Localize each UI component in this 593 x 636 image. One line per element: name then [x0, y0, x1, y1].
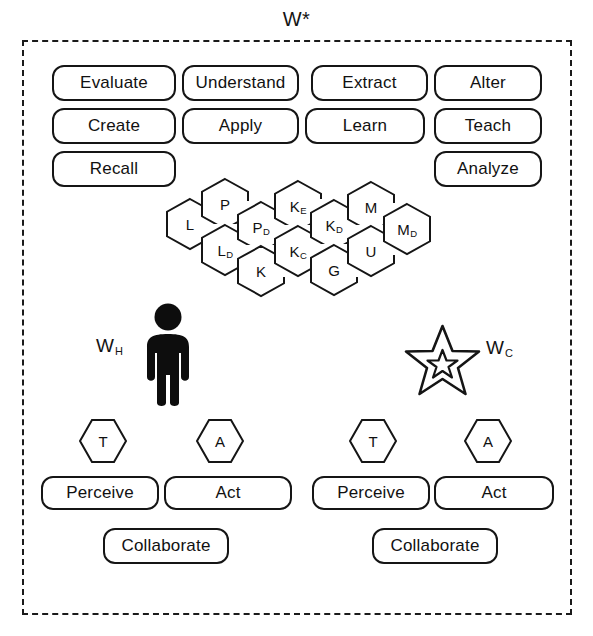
human-action-button-collaborate[interactable]: Collaborate — [103, 528, 229, 564]
knowledge-hex-label: K — [256, 264, 266, 279]
human-agent-label: WH — [96, 336, 122, 355]
diagram-canvas: W* Evaluate Understand Extract Alter Cre… — [0, 0, 593, 636]
capability-button-recall[interactable]: Recall — [52, 151, 176, 187]
capability-button-create[interactable]: Create — [52, 108, 176, 144]
computer-marker-hex-A[interactable]: A — [464, 419, 512, 463]
capability-button-alter[interactable]: Alter — [434, 65, 542, 101]
capability-button-analyze[interactable]: Analyze — [434, 151, 542, 187]
computer-action-button-perceive[interactable]: Perceive — [312, 476, 430, 510]
computer-action-button-collaborate[interactable]: Collaborate — [372, 528, 498, 564]
human-figure-icon — [137, 303, 199, 406]
computer-action-button-act[interactable]: Act — [434, 476, 554, 510]
capability-button-extract[interactable]: Extract — [311, 65, 428, 101]
world-title-label: W* — [0, 8, 593, 31]
capability-button-evaluate[interactable]: Evaluate — [52, 65, 176, 101]
human-marker-hex-A[interactable]: A — [196, 419, 244, 463]
human-action-button-act[interactable]: Act — [164, 476, 292, 510]
knowledge-hex-label: G — [328, 263, 340, 278]
human-marker-hex-T[interactable]: T — [79, 419, 127, 463]
knowledge-hex-label: U — [366, 244, 377, 259]
knowledge-hex-label: L — [186, 217, 194, 232]
capability-button-apply[interactable]: Apply — [182, 108, 299, 144]
capability-button-understand[interactable]: Understand — [182, 65, 299, 101]
human-action-button-perceive[interactable]: Perceive — [41, 476, 159, 510]
computer-agent-label: WC — [486, 338, 512, 357]
computer-agent-label-base: W — [486, 338, 504, 357]
computer-agent-label-sub: C — [505, 348, 513, 359]
knowledge-hex-label: MD — [397, 222, 416, 237]
knowledge-hex-label: KD — [326, 218, 343, 233]
human-agent-label-sub: H — [115, 346, 123, 357]
human-agent-label-base: W — [96, 336, 114, 355]
knowledge-hex-label: KE — [290, 199, 306, 214]
knowledge-hex-label: KC — [290, 244, 307, 259]
computer-marker-label: T — [368, 434, 377, 449]
capability-button-learn[interactable]: Learn — [305, 108, 425, 144]
knowledge-hex-label: M — [365, 200, 378, 215]
knowledge-hex-label: P — [220, 197, 230, 212]
capability-button-teach[interactable]: Teach — [434, 108, 542, 144]
knowledge-hex-MD[interactable]: MD — [383, 203, 431, 255]
computer-marker-hex-T[interactable]: T — [349, 419, 397, 463]
knowledge-hex-label: LD — [217, 243, 232, 258]
knowledge-hex-label: PD — [253, 220, 270, 235]
human-marker-label: T — [98, 434, 107, 449]
computer-marker-label: A — [483, 434, 493, 449]
star-figure-icon — [404, 324, 481, 398]
human-marker-label: A — [215, 434, 225, 449]
